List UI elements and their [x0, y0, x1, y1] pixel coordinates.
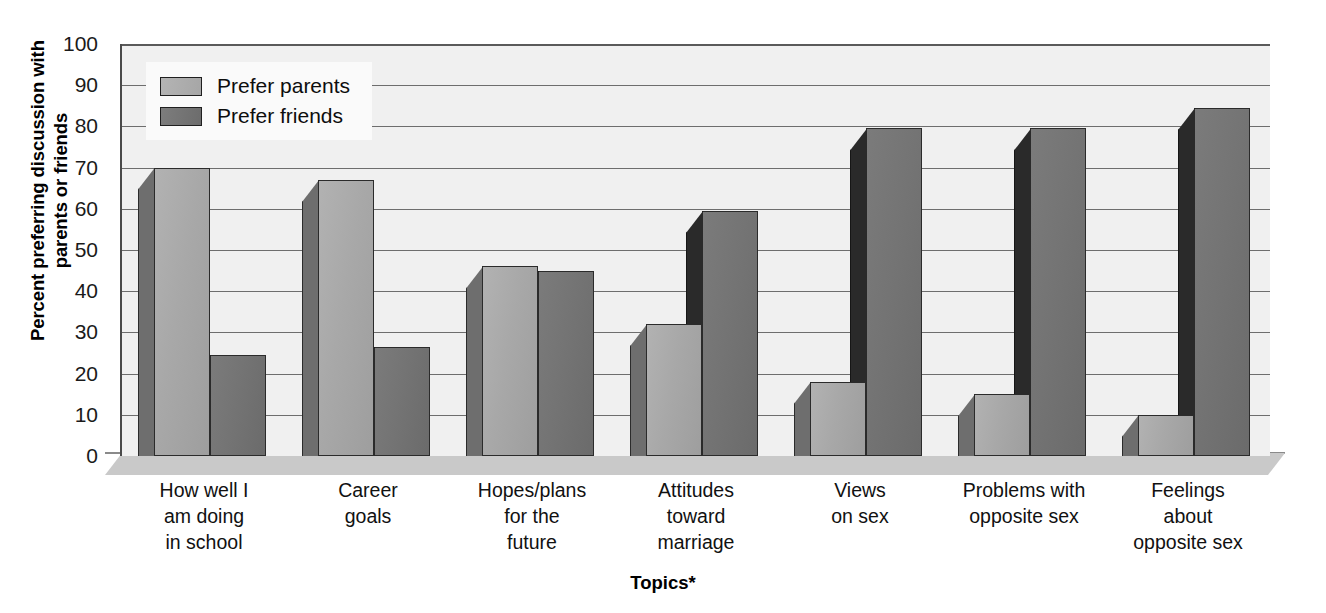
- y-tick-label: 90: [52, 74, 98, 95]
- bar-front-face: [538, 271, 594, 456]
- legend-item: Prefer friends: [160, 101, 350, 131]
- bar-side-face: [138, 168, 155, 456]
- x-category-label: Feelingsaboutopposite sex: [1093, 478, 1283, 556]
- x-category-label-line: future: [437, 530, 627, 556]
- legend-label: Prefer parents: [217, 74, 350, 98]
- bar-side-face: [302, 180, 319, 456]
- x-category-label: How well Iam doingin school: [109, 478, 299, 556]
- bar: [1030, 128, 1086, 456]
- bar: [974, 394, 1030, 456]
- bar-side-face: [1178, 108, 1195, 456]
- x-category-label-line: marriage: [601, 530, 791, 556]
- y-tick-label: 70: [52, 157, 98, 178]
- bar: [374, 347, 430, 456]
- y-axis-tick-labels: 0102030405060708090100: [46, 0, 98, 613]
- bar: [482, 266, 538, 456]
- bar-front-face: [318, 180, 374, 456]
- bar-front-face: [210, 355, 266, 456]
- x-category-label: Viewson sex: [765, 478, 955, 530]
- x-category-label-line: Career: [273, 478, 463, 504]
- bar-side-face: [630, 324, 647, 456]
- bar: [318, 180, 374, 456]
- x-category-label-line: in school: [109, 530, 299, 556]
- bar-front-face: [482, 266, 538, 456]
- bar-front-face: [154, 168, 210, 456]
- bar-front-face: [974, 394, 1030, 456]
- bar-front-face: [866, 128, 922, 456]
- bar-side-face: [466, 266, 483, 456]
- bar: [646, 324, 702, 456]
- x-category-label-line: Attitudes: [601, 478, 791, 504]
- chart-floor: [105, 453, 1285, 475]
- x-category-label-line: opposite sex: [1093, 530, 1283, 556]
- legend-item: Prefer parents: [160, 71, 350, 101]
- bar: [154, 168, 210, 456]
- x-category-label: Hopes/plansfor thefuture: [437, 478, 627, 556]
- bar: [1194, 108, 1250, 456]
- bar: [210, 355, 266, 456]
- x-category-label-line: am doing: [109, 504, 299, 530]
- x-category-label: Attitudestowardmarriage: [601, 478, 791, 556]
- bar-front-face: [810, 382, 866, 456]
- bar: [1138, 415, 1194, 456]
- bar-front-face: [1138, 415, 1194, 456]
- y-tick-label: 40: [52, 280, 98, 301]
- x-category-label-line: Feelings: [1093, 478, 1283, 504]
- x-category-label-line: opposite sex: [929, 504, 1119, 530]
- legend-swatch-friends-icon: [160, 107, 202, 126]
- x-axis-title: Topics*: [0, 572, 1326, 594]
- bar-front-face: [1194, 108, 1250, 456]
- y-tick-label: 100: [52, 33, 98, 54]
- x-category-label-line: toward: [601, 504, 791, 530]
- bar-front-face: [1030, 128, 1086, 456]
- y-tick-label: 0: [52, 445, 98, 466]
- bar: [866, 128, 922, 456]
- x-category-label: Problems withopposite sex: [929, 478, 1119, 530]
- x-category-label-line: about: [1093, 504, 1283, 530]
- x-axis-category-labels: How well Iam doingin schoolCareergoalsHo…: [122, 478, 1270, 568]
- y-tick-label: 30: [52, 321, 98, 342]
- bar: [810, 382, 866, 456]
- y-tick-label: 10: [52, 404, 98, 425]
- x-category-label-line: Views: [765, 478, 955, 504]
- bar-front-face: [374, 347, 430, 456]
- y-tick-label: 60: [52, 198, 98, 219]
- bar: [538, 271, 594, 456]
- legend-swatch-parents-icon: [160, 77, 202, 96]
- bar: [702, 211, 758, 456]
- bar-front-face: [646, 324, 702, 456]
- x-category-label-line: on sex: [765, 504, 955, 530]
- y-tick-label: 20: [52, 363, 98, 384]
- x-category-label: Careergoals: [273, 478, 463, 530]
- chart-legend: Prefer parentsPrefer friends: [146, 62, 372, 140]
- x-category-label-line: How well I: [109, 478, 299, 504]
- legend-label: Prefer friends: [217, 104, 343, 128]
- x-category-label-line: Hopes/plans: [437, 478, 627, 504]
- gridline: [122, 44, 1270, 46]
- bar-chart: Percent preferring discussion with paren…: [0, 0, 1326, 613]
- bar-front-face: [702, 211, 758, 456]
- x-category-label-line: Problems with: [929, 478, 1119, 504]
- gridline: [122, 209, 1270, 210]
- x-category-label-line: goals: [273, 504, 463, 530]
- x-category-label-line: for the: [437, 504, 627, 530]
- y-tick-label: 50: [52, 239, 98, 260]
- y-tick-label: 80: [52, 115, 98, 136]
- gridline: [122, 168, 1270, 169]
